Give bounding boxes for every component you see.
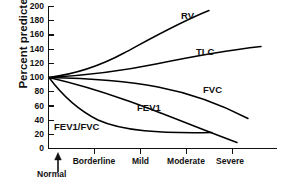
curve-label-tlc: TLC [196, 47, 214, 57]
y-tick-label-80: 80 [18, 87, 44, 95]
y-tick-label-0: 0 [18, 144, 44, 152]
curve-label-fev1: FEV1 [137, 103, 161, 113]
y-tick-label-140: 140 [18, 45, 44, 53]
y-tick-label-180: 180 [18, 16, 44, 24]
curve-label-rv: RV [181, 11, 194, 21]
x-category-severe: Severe [200, 157, 260, 166]
y-tick-label-60: 60 [18, 102, 44, 110]
spirometry-percent-predicted-chart: Percent predicted 200 180 160 140 120 10… [0, 0, 282, 186]
y-tick-label-200: 200 [18, 2, 44, 10]
curve-tlc [49, 47, 261, 78]
curve-label-fvc: FVC [203, 85, 222, 95]
normal-marker-label: Normal [37, 170, 66, 179]
y-tick-label-160: 160 [18, 30, 44, 38]
x-axis-ticks [95, 149, 233, 155]
y-tick-label-20: 20 [18, 130, 44, 138]
y-tick-label-120: 120 [18, 59, 44, 67]
y-tick-label-100: 100 [18, 73, 44, 81]
y-tick-label-40: 40 [18, 116, 44, 124]
curve-label-fev1-fvc: FEV1/FVC [54, 122, 99, 132]
